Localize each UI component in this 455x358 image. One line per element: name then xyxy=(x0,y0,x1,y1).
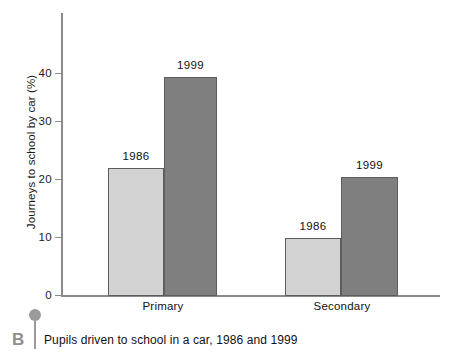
figure-panel: 40 30 20 10 0 Journeys to school by car … xyxy=(0,0,455,358)
pin-stem-icon xyxy=(34,319,36,349)
y-tick-label-0-wrap: 0 xyxy=(20,288,52,302)
bar-label-secondary-1986: 1986 xyxy=(285,220,341,232)
figure-letter: B xyxy=(12,331,24,348)
bar-secondary-1986[interactable] xyxy=(285,238,341,296)
figure-caption-block: B Pupils driven to school in a car, 1986… xyxy=(0,305,455,358)
y-axis-line xyxy=(61,13,63,297)
bar-chart: 40 30 20 10 0 Journeys to school by car … xyxy=(0,0,455,310)
y-tick-label-0: 0 xyxy=(20,288,52,302)
y-axis-title: Journeys to school by car (%) xyxy=(25,42,37,262)
bar-primary-1986[interactable] xyxy=(108,168,164,296)
figure-caption-text: Pupils driven to school in a car, 1986 a… xyxy=(44,333,298,347)
bar-secondary-1999[interactable] xyxy=(341,177,398,296)
y-tick-10 xyxy=(55,237,62,238)
bar-label-secondary-1999: 1999 xyxy=(341,159,398,171)
y-tick-30 xyxy=(55,121,62,122)
bar-primary-1999[interactable] xyxy=(164,77,217,296)
y-tick-40 xyxy=(55,73,62,74)
bar-label-primary-1999: 1999 xyxy=(164,59,217,71)
y-tick-0 xyxy=(55,295,62,296)
y-tick-20 xyxy=(55,179,62,180)
bar-label-primary-1986: 1986 xyxy=(108,150,164,162)
